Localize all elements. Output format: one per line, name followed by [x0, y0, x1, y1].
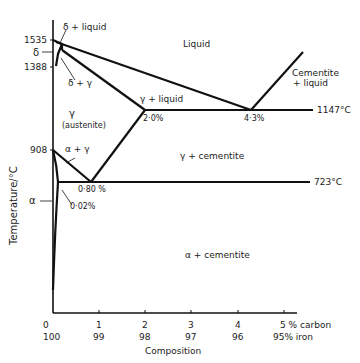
- x-tick-label: 100: [43, 332, 60, 342]
- x-tick-labels-carbon: 0 1 2 3 4 5 % carbon: [43, 320, 331, 330]
- point-label-4-3: 4·3%: [244, 114, 265, 123]
- phase-diagram: 1535 1388 908 Temperature/°C 0 1 2 3 4 5…: [0, 0, 360, 363]
- x-tick-label: 3: [188, 320, 194, 330]
- region-label-alpha: α: [29, 195, 36, 206]
- delta-boundary: [53, 40, 62, 66]
- point-label-2-0: 2·0%: [143, 114, 164, 123]
- isotherm-label-1147: 1147°C: [317, 105, 351, 115]
- arrow-alpha-gamma: [66, 158, 75, 163]
- point-label-0-02: 0·02%: [70, 202, 96, 211]
- region-label-gamma: γ: [69, 108, 75, 119]
- region-label-liquid: Liquid: [183, 39, 210, 49]
- y-tick-label-1535: 1535: [24, 35, 47, 45]
- x-tick-labels-iron: 100 99 98 97 96 95% iron: [43, 332, 313, 342]
- region-label-delta-gamma: δ + γ: [68, 78, 93, 88]
- x-tick-label: 4: [235, 320, 241, 330]
- x-tick-label: 1: [96, 320, 102, 330]
- region-label-cementite-liquid-1: Cementite: [292, 68, 339, 78]
- y-tick-label-1388: 1388: [24, 62, 47, 72]
- x-tick-label: 2: [142, 320, 148, 330]
- x-tick-label: 0: [43, 320, 49, 330]
- x-tick-label: 98: [139, 332, 151, 342]
- region-label-delta-liquid: δ + liquid: [63, 22, 106, 32]
- region-label-delta: δ: [33, 47, 39, 58]
- y-axis-label: Temperature/°C: [8, 166, 19, 246]
- x-tick-label: 99: [93, 332, 105, 342]
- region-label-alpha-gamma: α + γ: [65, 144, 90, 154]
- isotherm-label-723: 723°C: [314, 177, 342, 187]
- region-label-austenite: (austenite): [62, 121, 106, 130]
- region-label-gamma-liquid: γ + liquid: [140, 94, 183, 104]
- x-tick-label: 97: [185, 332, 196, 342]
- x-tick-label: 5 % carbon: [280, 320, 331, 330]
- x-tick-label: 96: [232, 332, 244, 342]
- x-axis-label: Composition: [145, 346, 201, 356]
- region-label-alpha-cementite: α + cementite: [185, 250, 250, 260]
- x-tick-label: 95% iron: [273, 332, 313, 342]
- region-label-gamma-cementite: γ + cementite: [180, 151, 245, 161]
- arrow-delta-gamma: [61, 58, 75, 80]
- point-label-0-80: 0·80 %: [78, 185, 106, 194]
- region-label-cementite-liquid-2: + liquid: [293, 78, 328, 88]
- y-tick-label-908: 908: [30, 145, 47, 155]
